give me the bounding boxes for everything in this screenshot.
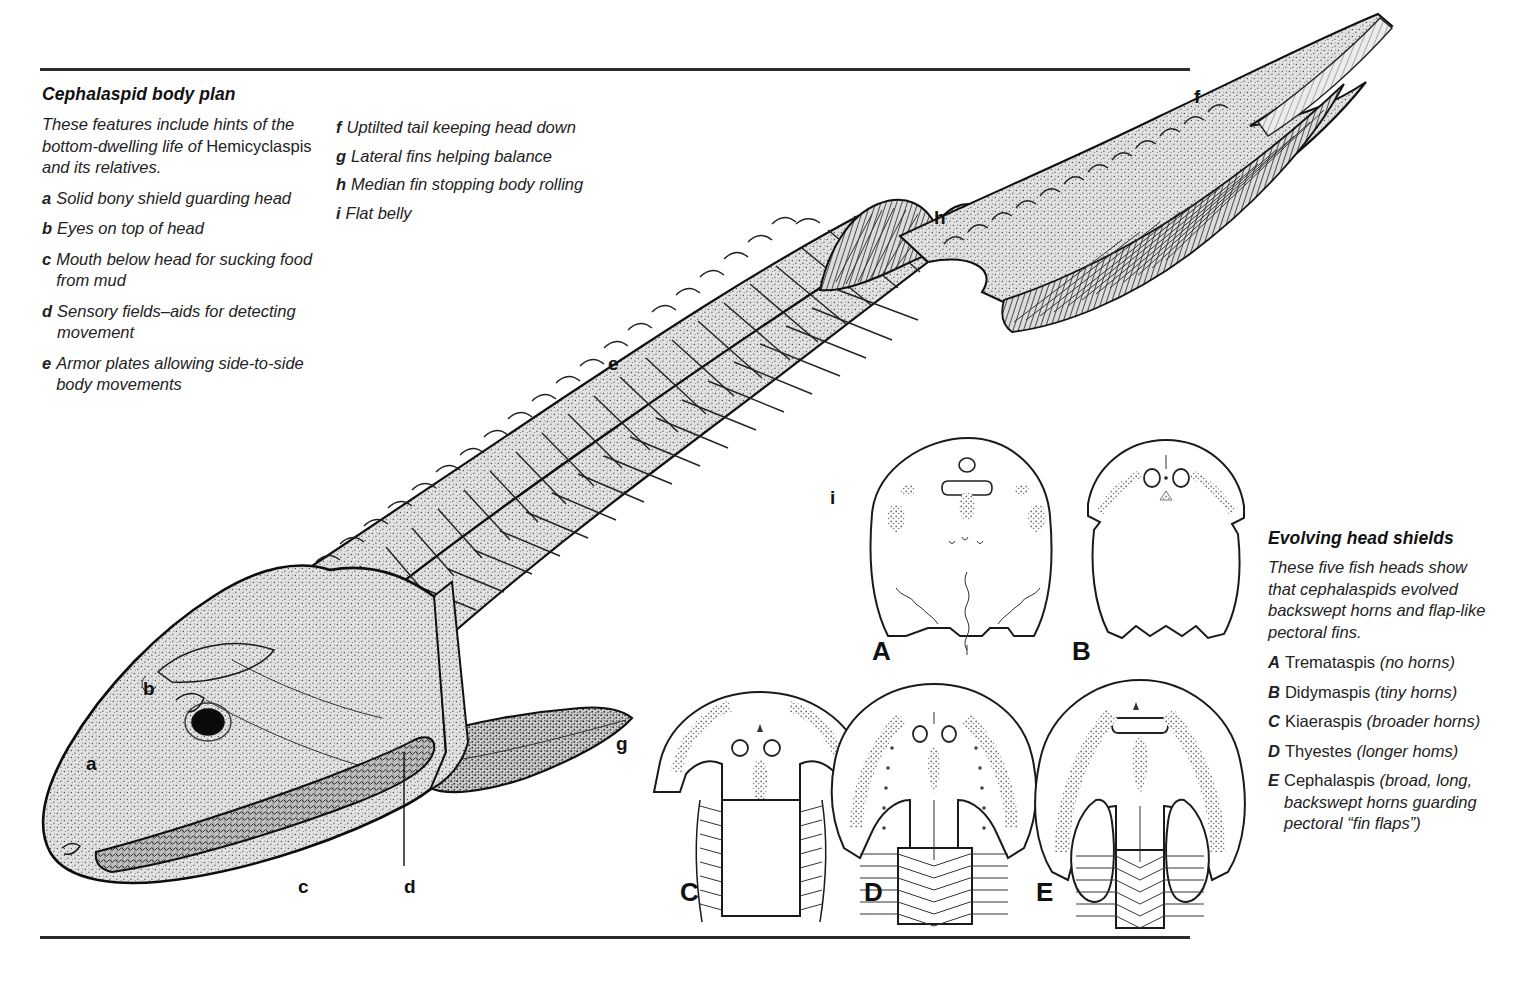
legend-item-e: e Armor plates allowing side-to-side bod…: [42, 353, 314, 396]
left-intro-genus: Hemicyclaspis: [206, 137, 311, 155]
legend-text-d: Sensory fields–aids for detecting moveme…: [57, 301, 314, 344]
shield-A-lateral-field-right: [1028, 504, 1046, 532]
shield-diagram-A: [871, 438, 1052, 655]
legend-key-i: i: [336, 203, 341, 225]
legend-text-i: Flat belly: [346, 203, 606, 225]
legend-item-f: f Uptilted tail keeping head down: [336, 117, 606, 139]
shield-legend-item-D: D Thyestes (longer homs): [1268, 741, 1490, 763]
left-caption-panel-2: f Uptilted tail keeping head down g Late…: [336, 117, 606, 231]
shield-diagram-D: [832, 684, 1036, 926]
left-caption-title: Cephalaspid body plan: [42, 84, 314, 105]
shield-legend-item-E: E Cephalaspis (broad, long, backswept ho…: [1268, 770, 1490, 835]
shield-legend-note-D: (longer homs): [1356, 742, 1458, 760]
legend-item-i: i Flat belly: [336, 203, 606, 225]
right-caption-title: Evolving head shields: [1268, 528, 1490, 549]
shield-legend-note-A: (no horns): [1380, 653, 1455, 671]
legend-item-a: a Solid bony shield guarding head: [42, 188, 314, 210]
legend-key-d: d: [42, 301, 52, 344]
legend-text-g: Lateral fins helping balance: [351, 146, 606, 168]
fish-label-a: a: [86, 753, 97, 775]
legend-item-c: c Mouth below head for sucking food from…: [42, 249, 314, 292]
shield-legend-key-B: B: [1268, 682, 1280, 704]
figure-canvas: Cephalaspid body plan These features inc…: [0, 0, 1514, 987]
fish-label-d: d: [404, 876, 416, 898]
shield-A-lateral-field-left: [887, 504, 905, 532]
legend-key-e: e: [42, 353, 51, 396]
fish-eye: [192, 709, 224, 735]
shield-A-lateral-field-right-upper: [1015, 484, 1029, 496]
shield-legend-name-D: Thyestes: [1285, 742, 1352, 760]
shield-A-median-field: [959, 492, 975, 520]
shield-legend-note-C: (broader horns): [1367, 712, 1481, 730]
fish-label-c: c: [298, 876, 309, 898]
left-caption-panel: Cephalaspid body plan These features inc…: [42, 84, 314, 405]
fish-label-f: f: [1194, 86, 1200, 108]
shield-legend-item-B: B Didymaspis (tiny horns): [1268, 682, 1490, 704]
legend-item-h: h Median fin stopping body rolling: [336, 174, 606, 196]
shield-legend-name-E: Cephalaspis: [1284, 771, 1375, 789]
shield-A-lateral-field-left-upper: [901, 484, 915, 496]
fish-label-i: i: [830, 487, 835, 509]
shield-diagram-B: [1088, 440, 1244, 638]
right-caption-list: A Tremataspis (no horns) B Didymaspis (t…: [1268, 652, 1490, 835]
legend-text-b: Eyes on top of head: [57, 218, 314, 240]
shield-legend-name-C: Kiaeraspis: [1285, 712, 1362, 730]
fish-label-h: h: [934, 207, 946, 229]
fish-trunk: [312, 214, 900, 621]
shield-label-A: A: [872, 636, 891, 667]
legend-text-c: Mouth below head for sucking food from m…: [56, 249, 314, 292]
left-intro-part3: and its relatives.: [42, 158, 161, 176]
legend-text-a: Solid bony shield guarding head: [56, 188, 314, 210]
fish-label-g: g: [616, 733, 628, 755]
legend-key-a: a: [42, 188, 51, 210]
shield-label-D: D: [864, 877, 883, 908]
shield-legend-key-E: E: [1268, 770, 1279, 835]
legend-text-h: Median fin stopping body rolling: [351, 174, 606, 196]
legend-key-b: b: [42, 218, 52, 240]
shield-legend-name-A: Tremataspis: [1285, 653, 1375, 671]
shield-label-C: C: [680, 877, 699, 908]
legend-item-b: b Eyes on top of head: [42, 218, 314, 240]
shield-legend-key-D: D: [1268, 741, 1280, 763]
legend-text-f: Uptilted tail keeping head down: [347, 117, 607, 139]
legend-item-d: d Sensory fields–aids for detecting move…: [42, 301, 314, 344]
shield-label-E: E: [1036, 877, 1053, 908]
right-caption-intro: These five fish heads show that cephalas…: [1268, 557, 1490, 643]
shield-legend-note-B: (tiny horns): [1375, 683, 1458, 701]
right-caption-panel: Evolving head shields These five fish he…: [1268, 528, 1490, 843]
legend-key-c: c: [42, 249, 51, 292]
legend-key-g: g: [336, 146, 346, 168]
shield-legend-name-B: Didymaspis: [1285, 683, 1370, 701]
shield-legend-key-C: C: [1268, 711, 1280, 733]
legend-text-e: Armor plates allowing side-to-side body …: [56, 353, 314, 396]
shield-diagram-E: [1035, 680, 1245, 928]
fish-label-b: b: [143, 678, 155, 700]
legend-key-h: h: [336, 174, 346, 196]
shield-legend-item-C: C Kiaeraspis (broader horns): [1268, 711, 1490, 733]
left-caption-intro: These features include hints of the bott…: [42, 114, 314, 179]
legend-key-f: f: [336, 117, 342, 139]
shield-legend-item-A: A Tremataspis (no horns): [1268, 652, 1490, 674]
left-caption-list: a Solid bony shield guarding head b Eyes…: [42, 188, 314, 396]
shield-legend-key-A: A: [1268, 652, 1280, 674]
legend-item-g: g Lateral fins helping balance: [336, 146, 606, 168]
fish-label-e: e: [608, 353, 619, 375]
shield-label-B: B: [1072, 636, 1091, 667]
